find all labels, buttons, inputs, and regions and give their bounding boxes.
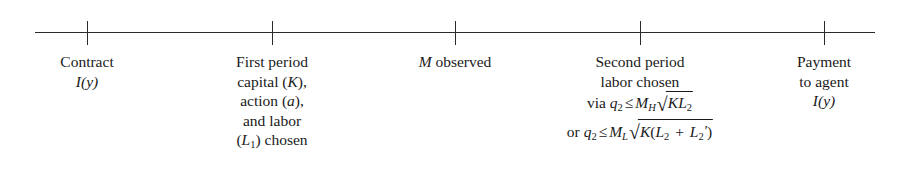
formula-high-radicand: KL2 xyxy=(666,91,693,119)
formula-low-operator: ≤ xyxy=(597,123,610,140)
m-observed-line-1: M observed xyxy=(419,52,492,72)
formula-low-sqrt: √K(L2 + L2′) xyxy=(629,119,713,148)
formula-low-paren-close: ) xyxy=(707,123,712,140)
contract-line-1: Contract xyxy=(60,52,113,72)
radical-sign-icon: √ xyxy=(657,95,668,115)
first-period-line-1: First period xyxy=(236,52,308,72)
formula-low-var-L2-subscript: 2 xyxy=(664,131,669,142)
first-period-capital-text: capital ( xyxy=(237,73,287,90)
first-period-var-K: K xyxy=(287,73,297,90)
formula-high-prefix: via xyxy=(587,94,610,111)
formula-high-var-L: L xyxy=(678,94,687,111)
timeline-tick-m-observed xyxy=(455,21,456,45)
formula-high-operator: ≤ xyxy=(623,94,636,111)
payment-line-2: to agent xyxy=(797,72,851,92)
m-observed-text: observed xyxy=(432,53,492,70)
first-period-line-2: capital (K), xyxy=(236,72,308,92)
first-period-action-text: action ( xyxy=(240,92,287,109)
formula-high-var-M: M xyxy=(635,94,648,111)
formula-low-var-K: K xyxy=(640,123,650,140)
formula-high-var-M-subscript: H xyxy=(648,102,656,113)
timeline-label-second-period: Second period labor chosen via q2≤MH√KL2… xyxy=(567,52,713,148)
contract-paren-close: ) xyxy=(93,73,98,90)
timeline-tick-payment xyxy=(824,21,825,45)
timeline-label-m-observed: M observed xyxy=(419,52,492,72)
first-period-line-4: and labor xyxy=(236,111,308,131)
formula-low-plus: + xyxy=(669,123,690,140)
first-period-capital-suffix: ), xyxy=(298,73,307,90)
formula-high-var-L-subscript: 2 xyxy=(687,102,692,113)
formula-high-var-q: q xyxy=(610,94,618,111)
second-period-line-1: Second period xyxy=(567,52,713,72)
contract-payoff-expression: I(y) xyxy=(60,72,113,92)
contract-var-y: y xyxy=(86,73,93,90)
formula-high-sqrt: √KL2 xyxy=(657,91,693,119)
formula-low-radicand: K(L2 + L2′) xyxy=(638,119,713,148)
payment-paren-close: ) xyxy=(830,92,835,109)
formula-low-prefix: or xyxy=(567,123,584,140)
second-period-line-2: labor chosen xyxy=(567,72,713,92)
first-period-line-3: action (a), xyxy=(236,91,308,111)
timeline-tick-contract xyxy=(87,21,88,45)
formula-high-var-K: K xyxy=(668,94,678,111)
timeline-tick-second-period xyxy=(640,21,641,45)
first-period-line-5: (L1) chosen xyxy=(236,130,308,154)
formula-low-var-L2-prime: L xyxy=(690,123,699,140)
formula-low-var-M: M xyxy=(609,123,622,140)
payment-payoff-expression: I(y) xyxy=(797,91,851,111)
timeline-tick-first-period xyxy=(272,21,273,45)
first-period-labor-suffix: ) chosen xyxy=(255,131,307,148)
formula-low-var-q: q xyxy=(584,123,592,140)
formula-low-var-L2: L xyxy=(655,123,664,140)
second-period-formula-low: or q2≤ML√K(L2 + L2′) xyxy=(567,119,713,148)
timeline-label-payment: Payment to agent I(y) xyxy=(797,52,851,111)
timeline-label-contract: Contract I(y) xyxy=(60,52,113,91)
payment-line-1: Payment xyxy=(797,52,851,72)
first-period-var-L: L xyxy=(242,131,251,148)
m-observed-var-M: M xyxy=(419,53,432,70)
first-period-var-a: a xyxy=(287,92,295,109)
timeline-figure: Contract I(y) First period capital (K), … xyxy=(0,0,904,185)
second-period-formula-high: via q2≤MH√KL2 xyxy=(567,91,713,119)
timeline-label-first-period: First period capital (K), action (a), an… xyxy=(236,52,308,154)
formula-low-var-M-subscript: L xyxy=(622,131,628,142)
first-period-action-suffix: ), xyxy=(295,92,304,109)
radical-sign-icon: √ xyxy=(629,124,640,144)
